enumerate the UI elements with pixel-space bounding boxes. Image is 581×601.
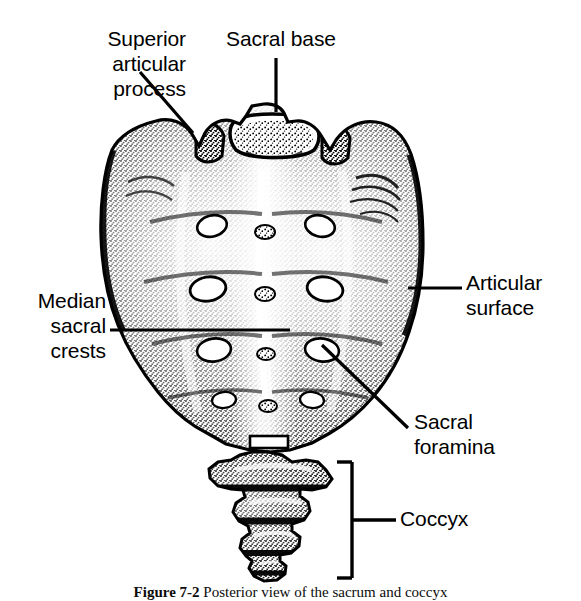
label-superior-articular-process: Superior articular process <box>8 26 186 101</box>
figure-caption-text: Posterior view of the sacrum and coccyx <box>203 584 447 600</box>
figure-caption: Figure 7-2 Posterior view of the sacrum … <box>0 583 581 601</box>
label-sacral-foramina: Sacral foramina <box>414 409 574 459</box>
figure-caption-number: Figure 7-2 <box>134 584 200 600</box>
label-sacral-base: Sacral base <box>196 26 366 51</box>
label-median-sacral-crests: Median sacral crests <box>0 288 106 363</box>
label-articular-surface: Articular surface <box>466 270 578 320</box>
sacrum-body <box>90 100 435 460</box>
label-coccyx: Coccyx <box>400 506 520 531</box>
